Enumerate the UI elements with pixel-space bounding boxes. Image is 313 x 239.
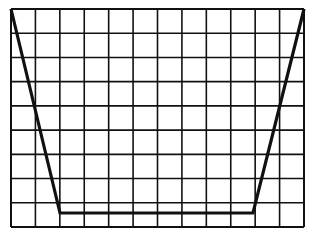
oscilloscope-graticule xyxy=(0,0,313,239)
